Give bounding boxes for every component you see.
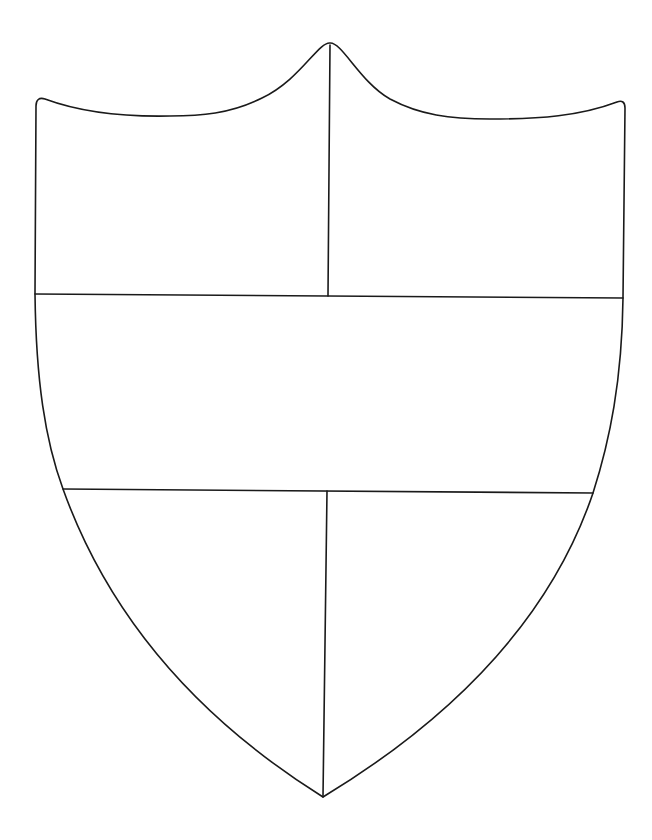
shield-diagram	[0, 0, 652, 840]
upper-band-line	[35, 294, 623, 298]
upper-divider-vertical	[328, 45, 330, 296]
lower-band-line	[63, 489, 593, 493]
shield-outline	[35, 43, 625, 797]
lower-divider-vertical	[323, 491, 327, 797]
